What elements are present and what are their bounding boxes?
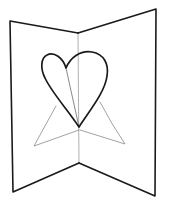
card-left-panel-outline bbox=[10, 21, 79, 192]
left-support-triangle bbox=[34, 106, 79, 146]
card-right-panel-outline bbox=[78, 9, 156, 196]
center-fold-line bbox=[78, 33, 79, 163]
right-support-triangle bbox=[80, 102, 125, 144]
pop-up-card-drawing bbox=[0, 0, 169, 203]
heart-outline bbox=[42, 52, 108, 127]
